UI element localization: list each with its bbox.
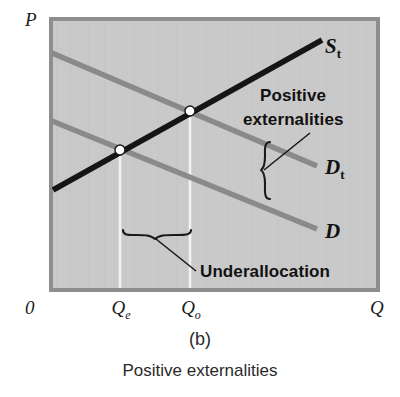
y-axis-label: P bbox=[25, 10, 37, 29]
x-tick-qo: Qo bbox=[178, 298, 204, 321]
curve-label-supply-true: St bbox=[325, 36, 341, 60]
x-tick-qo-base: Q bbox=[181, 297, 195, 318]
equilibrium-point-qo bbox=[185, 106, 195, 116]
curve-label-demand-true-base: D bbox=[325, 155, 340, 179]
curve-label-supply-true-base: S bbox=[325, 34, 337, 58]
curve-label-supply-true-sub: t bbox=[337, 46, 341, 61]
annotation-positive-externalities-line1: Positive bbox=[260, 86, 326, 105]
figure-caption: Positive externalities bbox=[0, 362, 400, 379]
annotation-underallocation: Underallocation bbox=[200, 262, 330, 281]
x-tick-qe-sub: e bbox=[125, 308, 130, 322]
curve-label-demand-true: Dt bbox=[325, 157, 345, 181]
x-tick-qe-base: Q bbox=[111, 297, 125, 318]
origin-label: 0 bbox=[25, 298, 35, 317]
annotation-positive-externalities-line2: externalities bbox=[243, 110, 344, 129]
x-tick-qe: Qe bbox=[108, 298, 134, 321]
equilibrium-point-qe bbox=[115, 145, 125, 155]
curve-label-demand-private: D bbox=[325, 221, 340, 242]
curve-label-demand-private-base: D bbox=[325, 219, 340, 243]
x-tick-qo-sub: o bbox=[195, 308, 201, 322]
panel-label: (b) bbox=[0, 330, 400, 348]
curve-label-demand-true-sub: t bbox=[340, 167, 344, 182]
x-axis-label: Q bbox=[370, 298, 384, 317]
